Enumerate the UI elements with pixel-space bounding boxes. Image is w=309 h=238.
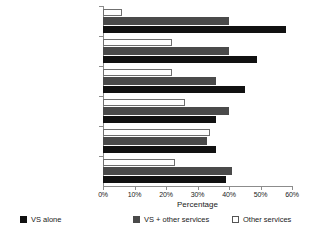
legend-label: VS + other services bbox=[144, 215, 209, 224]
bar bbox=[103, 77, 216, 85]
legend-swatch-icon bbox=[133, 216, 140, 223]
bar bbox=[103, 69, 172, 77]
x-tick-label: 20% bbox=[159, 191, 172, 198]
bar-group: Use of veterinary medicinal products bbox=[103, 6, 292, 36]
bar bbox=[103, 9, 122, 17]
legend-label: Other services bbox=[243, 215, 291, 224]
legend-item[interactable]: VS alone bbox=[20, 215, 61, 224]
bar bbox=[103, 99, 185, 107]
x-tick-label: 0% bbox=[98, 191, 108, 198]
x-tick bbox=[229, 186, 230, 190]
bar bbox=[103, 26, 286, 34]
bar bbox=[103, 129, 210, 137]
bar bbox=[103, 86, 245, 94]
x-tick-label: 60% bbox=[285, 191, 298, 198]
bar bbox=[103, 176, 226, 184]
x-tick bbox=[135, 186, 136, 190]
bar bbox=[103, 56, 257, 64]
bar-group: Animal feed produced on the farm bbox=[103, 96, 292, 126]
x-tick bbox=[261, 186, 262, 190]
chart-legend: VS aloneVS + other servicesOther service… bbox=[0, 215, 309, 231]
bar bbox=[103, 47, 229, 55]
bar bbox=[103, 167, 232, 175]
bar bbox=[103, 116, 216, 124]
horizontal-bar-chart: 0%10%20%30%40%50%60% Percentage Use of v… bbox=[0, 0, 309, 238]
x-tick-label: 50% bbox=[254, 191, 267, 198]
x-tick-label: 10% bbox=[128, 191, 141, 198]
bar bbox=[103, 146, 216, 154]
bar-group: Production of veterinary medicinal produ… bbox=[103, 66, 292, 96]
legend-item[interactable]: VS + other services bbox=[133, 215, 209, 224]
legend-label: VS alone bbox=[31, 215, 61, 224]
x-tick bbox=[103, 186, 104, 190]
plot-area: Use of veterinary medicinal productsDist… bbox=[103, 6, 292, 186]
x-tick bbox=[198, 186, 199, 190]
x-tick-label: 30% bbox=[191, 191, 204, 198]
bar bbox=[103, 159, 175, 167]
bar-group: Distribution of veterinary medicinal pro… bbox=[103, 36, 292, 66]
legend-swatch-icon bbox=[20, 216, 27, 223]
x-axis-title: Percentage bbox=[103, 200, 292, 209]
bar bbox=[103, 39, 172, 47]
bar bbox=[103, 137, 207, 145]
legend-swatch-icon bbox=[232, 216, 239, 223]
bar-group: Animal feed distribution bbox=[103, 126, 292, 156]
x-tick bbox=[292, 186, 293, 190]
bar-group: Animal feed production bbox=[103, 156, 292, 186]
x-tick bbox=[166, 186, 167, 190]
bar bbox=[103, 17, 229, 25]
bar bbox=[103, 107, 229, 115]
x-tick-label: 40% bbox=[222, 191, 235, 198]
legend-item[interactable]: Other services bbox=[232, 215, 291, 224]
